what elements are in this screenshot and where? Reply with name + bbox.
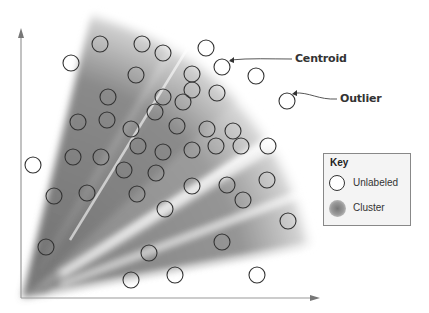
y-axis-arrow-icon	[18, 28, 24, 38]
legend-item-cluster: Cluster	[329, 199, 409, 219]
legend-label-unlabeled: Unlabeled	[353, 177, 398, 188]
data-point	[249, 267, 265, 283]
legend-key: Key Unlabeled Cluster	[323, 153, 411, 226]
legend-title: Key	[330, 157, 348, 168]
data-point	[279, 93, 295, 109]
legend-item-unlabeled: Unlabeled	[329, 174, 409, 194]
cluster-blob-icon	[329, 200, 346, 217]
cluster-diagram: Centroid Outlier Key Unlabeled Cluster	[0, 0, 429, 313]
outlier-leader	[294, 93, 337, 99]
cluster-fans	[22, 12, 315, 298]
open-circle-icon	[329, 175, 345, 191]
data-point	[63, 55, 79, 71]
data-point	[25, 157, 41, 173]
x-axis-arrow-icon	[310, 295, 320, 301]
outlier-label: Outlier	[340, 92, 381, 105]
centroid-label: Centroid	[295, 52, 347, 65]
legend-label-cluster: Cluster	[353, 202, 385, 213]
